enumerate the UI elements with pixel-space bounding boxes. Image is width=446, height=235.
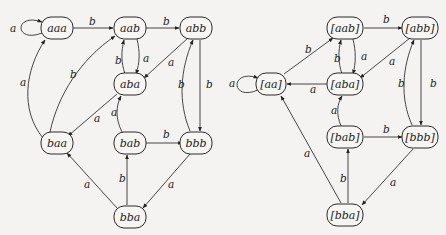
edge-label-aab-abb: b [383, 13, 390, 25]
state-label: [bbb] [405, 131, 435, 144]
edge-label-bab-bbb: b [383, 123, 390, 135]
edge-label-aba-aab: b [115, 54, 122, 66]
state-node-original-automaton-abb: abb [180, 17, 212, 39]
state-label: bbb [185, 137, 206, 150]
edge-labels: abbababbabaababaabbabaabbababa [10, 13, 437, 190]
edge-label-bba-baa: a [84, 178, 90, 190]
edge-label-abb-bbb: b [206, 78, 213, 90]
edge-label-bbb-abb: b [398, 77, 405, 89]
edge-label-aab-abb: b [163, 15, 170, 27]
edge-label-baa-aab: b [70, 68, 77, 80]
edge-label-bab-aba: a [111, 106, 117, 118]
state-label: [abb] [405, 22, 435, 35]
edge-label-aaa-aab: b [89, 15, 96, 27]
state-label: bba [120, 211, 141, 224]
edge-label-abb-aba: a [168, 56, 174, 68]
edge-aba-aab [122, 40, 125, 74]
state-label: bab [120, 137, 141, 150]
state-node-original-automaton-bba: bba [114, 206, 146, 228]
state-label: [bba] [330, 209, 360, 222]
edge-bbb-abb [404, 40, 414, 125]
state-label: aab [120, 22, 140, 35]
edge-label-abb-bbb: b [430, 77, 437, 89]
edge-label-bba-bab: b [340, 172, 347, 184]
edge-label-aab-aba: a [361, 50, 367, 62]
edge-abb-aba [360, 38, 410, 78]
edge-label-bab-bbb: b [163, 128, 170, 140]
edge-label-aba-aab: b [334, 52, 341, 64]
edge-bab-aba [117, 96, 122, 132]
edge-bbb-bba [362, 149, 413, 205]
edge-abb-aba [144, 38, 188, 78]
edge-label-abb-aba: a [389, 55, 395, 67]
edge-label-aba-aa: a [310, 83, 316, 95]
edge-label-bba-aa: a [304, 147, 310, 159]
state-label: [aa] [260, 78, 282, 91]
state-label: [aba] [331, 78, 360, 91]
edge-label-bba-bab: b [119, 172, 126, 184]
state-node-quotient-automaton-aa: [aa] [256, 73, 286, 95]
state-label: [aab] [331, 22, 360, 35]
state-node-quotient-automaton-aba: [aba] [327, 73, 363, 95]
edge-label-bbb-bba: a [168, 178, 174, 190]
state-node-original-automaton-baa: baa [41, 132, 73, 154]
state-node-original-automaton-aab: aab [114, 17, 146, 39]
state-node-quotient-automaton-abb: [abb] [402, 17, 438, 39]
edge-aba-baa [68, 94, 117, 136]
state-node-quotient-automaton-bbb: [bbb] [402, 126, 438, 148]
edge-label-bbb-abb: b [178, 78, 185, 90]
state-node-original-automaton-aaa: aaa [41, 17, 73, 39]
edge-bba-baa [67, 153, 117, 208]
state-node-quotient-automaton-bba: [bba] [327, 204, 363, 226]
state-node-original-automaton-bab: bab [114, 132, 146, 154]
edge-aa-aa [237, 76, 258, 92]
edge-bbb-bba [143, 154, 190, 208]
edge-baa-aab [50, 36, 115, 132]
state-label: abb [186, 22, 207, 35]
edge-label-aba-baa: a [94, 112, 100, 124]
edge-label-aaa-aaa: a [10, 22, 16, 34]
edge-label-aa-aab: b [305, 43, 312, 55]
state-node-quotient-automaton-aab: [aab] [327, 17, 363, 39]
state-node-original-automaton-bbb: bbb [180, 132, 212, 154]
automata-figure: abbababbabaababaabbabaabbababa aaaaababb… [0, 0, 446, 235]
edge-label-baa-aaa: a [20, 76, 26, 88]
edge-bab-aba [338, 96, 342, 126]
edge-label-bbb-bba: a [390, 176, 396, 188]
edge-label-aa-aa: a [229, 77, 235, 89]
state-node-original-automaton-aba: aba [114, 73, 146, 95]
edge-aab-aba [353, 39, 355, 74]
edge-aaa-aaa [21, 20, 42, 35]
state-nodes: aaaaababbababaababbbbbba[aa][aab][abb][a… [41, 17, 438, 228]
state-node-quotient-automaton-bab: [bab] [327, 126, 363, 148]
state-label: baa [47, 137, 67, 150]
edge-baa-aaa [28, 40, 45, 138]
state-label: aba [120, 78, 140, 91]
state-label: aaa [47, 22, 67, 35]
state-label: [bab] [330, 131, 360, 144]
edge-label-aab-aba: a [143, 52, 149, 64]
edge-label-bab-aba: a [331, 104, 337, 116]
edge-aab-aba [136, 39, 139, 74]
